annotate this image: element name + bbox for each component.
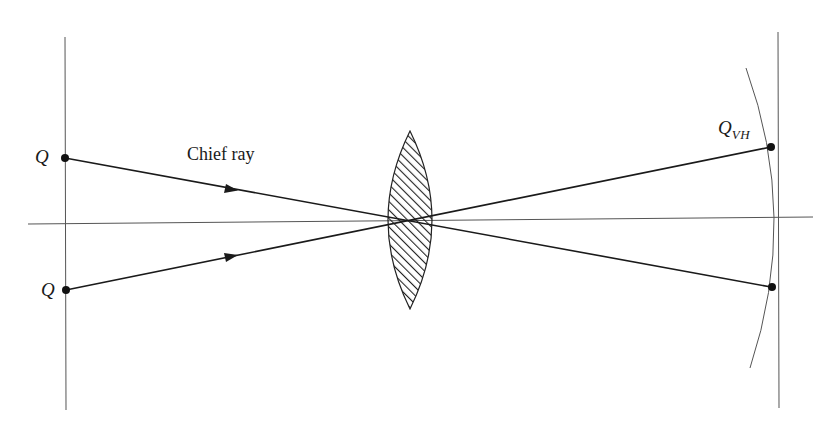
object-point-lower: [62, 286, 70, 294]
image-point-label-subscript: VH: [732, 127, 750, 142]
optics-diagram: [0, 0, 828, 425]
arrow-icon: [224, 253, 238, 262]
object-point-upper: [61, 154, 69, 162]
image-point-label-main: Q: [718, 117, 732, 138]
object-point-lower-label: Q: [41, 279, 55, 301]
image-point-lower: [768, 283, 776, 291]
image-point-label: QVH: [718, 117, 750, 139]
chief-ray-label: Chief ray: [187, 144, 254, 165]
image-point-upper: [767, 143, 775, 151]
image-plane-line: [778, 32, 779, 408]
object-point-upper-label: Q: [35, 146, 49, 168]
